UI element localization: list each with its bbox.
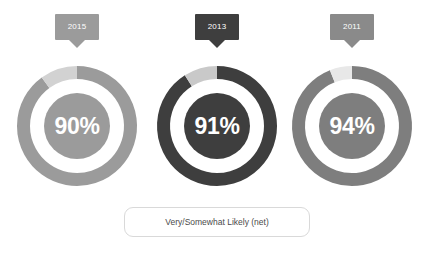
year-tag-pointer-icon xyxy=(343,39,361,48)
year-tag-label: 2013 xyxy=(208,23,227,31)
donut-center-circle xyxy=(319,93,385,159)
donut-arc-remainder xyxy=(46,73,77,83)
donut-arc-remainder xyxy=(188,73,217,81)
donut-chart-2013: 91% xyxy=(155,64,279,188)
year-tag-pointer-icon xyxy=(208,39,226,48)
donut-svg xyxy=(15,64,139,188)
infographic-canvas: 201590%201391%201194% Very/Somewhat Like… xyxy=(0,0,432,259)
legend-label: Very/Somewhat Likely (net) xyxy=(165,218,268,227)
donut-chart-2015: 90% xyxy=(15,64,139,188)
year-tag-2011: 2011 xyxy=(330,14,374,40)
donut-center-circle xyxy=(184,93,250,159)
year-tag-label: 2015 xyxy=(68,23,87,31)
legend-pill: Very/Somewhat Likely (net) xyxy=(124,207,310,237)
donut-svg xyxy=(290,64,414,188)
donut-svg xyxy=(155,64,279,188)
donut-center-circle xyxy=(44,93,110,159)
donut-chart-2011: 94% xyxy=(290,64,414,188)
year-tag-2015: 2015 xyxy=(55,14,99,40)
year-tag-label: 2011 xyxy=(343,23,361,31)
donut-arc-remainder xyxy=(332,73,352,77)
year-tag-pointer-icon xyxy=(68,39,86,48)
year-tag-2013: 2013 xyxy=(195,14,239,40)
